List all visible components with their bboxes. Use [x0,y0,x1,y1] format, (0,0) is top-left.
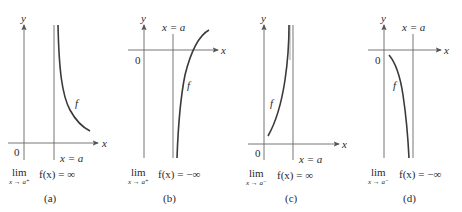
panel-a-x-label: x [102,138,107,149]
panel-b-origin-label: 0 [135,55,141,66]
panel-c-x-label: x [342,139,347,150]
panel-b-y-label: y [141,13,146,24]
panel-c-y-label: y [261,13,266,24]
figure-canvas [0,0,462,212]
panel-d-asymptote-label: x = a [402,22,425,33]
panel-b-curve [177,30,209,158]
panel-a-caption: (a) [44,193,56,204]
limit-word: lim [131,167,146,178]
limit-expression: f(x) = ∞ [277,170,313,181]
panel-a-y-label: y [21,13,26,24]
panel-a-curve [58,25,90,131]
panel-c-limit: lim x → a⁻ f(x) = ∞ [249,168,264,179]
limit-word: lim [371,167,386,178]
panel-d-caption: (d) [403,193,416,204]
limit-subscript: x → a⁻ [368,179,389,186]
limit-word: lim [12,167,27,178]
limit-expression: f(x) = ∞ [39,169,75,180]
limit-subscript: x → a⁺ [9,179,30,186]
panel-c-curve [268,25,289,136]
panel-c-caption: (c) [285,193,297,204]
limit-word: lim [249,168,264,179]
panel-b-caption: (b) [163,193,176,204]
limit-subscript: x → a⁺ [128,179,149,186]
panel-b-limit: lim x → a⁺ f(x) = −∞ [131,167,146,178]
limit-expression: f(x) = −∞ [399,169,441,180]
panel-c-origin-label: 0 [255,148,261,159]
panel-b-curve-label: f [187,80,190,91]
panel-d-curve-label: f [393,80,396,91]
panel-d-x-label: x [444,45,449,56]
panel-b-asymptote-label: x = a [162,22,185,33]
panel-b-graph [128,25,218,158]
panel-c-graph [248,25,339,160]
panel-c-curve-label: f [270,98,273,109]
panel-c-asymptote-label: x = a [299,154,322,165]
panel-d-graph [368,25,441,158]
panel-a-asymptote-label: x = a [60,153,83,164]
panel-d-y-label: y [381,13,386,24]
panel-a-graph [8,25,98,160]
panel-d-origin-label: 0 [375,55,381,66]
panel-a-origin-label: 0 [14,147,20,158]
panel-a-limit: lim x → a⁺ f(x) = ∞ [12,167,27,178]
panel-b-x-label: x [221,45,226,56]
limit-expression: f(x) = −∞ [158,169,200,180]
panel-a-curve-label: f [75,98,78,109]
limit-subscript: x → a⁻ [246,180,267,187]
panel-d-limit: lim x → a⁻ f(x) = −∞ [371,167,386,178]
panel-d-curve [389,55,409,158]
